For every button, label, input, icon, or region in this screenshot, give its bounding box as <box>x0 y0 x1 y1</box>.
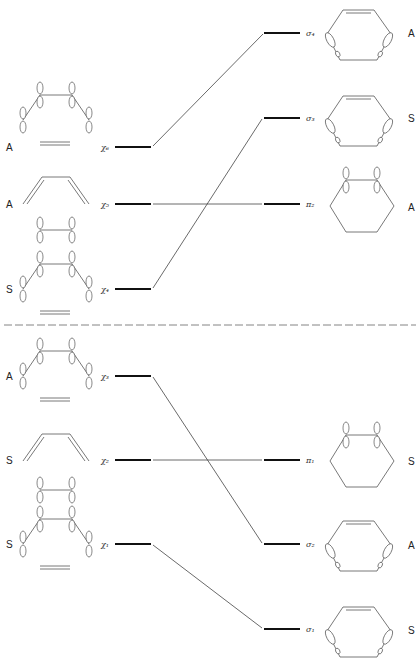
level-label-sigma2: σ₂ <box>306 540 315 549</box>
level-label-chi2: χ₂ <box>100 456 109 465</box>
symmetry-label-chi3: A <box>6 371 13 382</box>
correlation-chi1-sigma1 <box>153 545 262 628</box>
left-structure-chi5-pi <box>37 217 75 243</box>
symmetry-label-sigma3: S <box>408 113 415 124</box>
right-structure-sigma2 <box>323 521 394 571</box>
level-label-sigma3: σ₃ <box>306 114 315 123</box>
correlation-chi4-sigma3 <box>153 119 262 288</box>
symmetry-label-sigma4: A <box>408 28 415 39</box>
level-label-chi3: χ₃ <box>100 372 109 381</box>
symmetry-label-sigma1: S <box>408 625 415 636</box>
level-label-pi1: π₁ <box>305 456 314 465</box>
left-structure-chi6 <box>20 82 92 145</box>
level-label-sigma1: σ₁ <box>306 625 315 634</box>
correlation-chi6-sigma4 <box>153 34 263 146</box>
symmetry-label-pi2: A <box>408 202 415 213</box>
symmetry-label-chi1: S <box>6 539 13 550</box>
symmetry-label-chi4: S <box>6 284 13 295</box>
level-label-chi4: χ₄ <box>100 285 109 294</box>
left-structure-chi3 <box>20 338 92 401</box>
level-label-chi1: χ₁ <box>100 540 109 549</box>
right-structure-sigma1 <box>323 607 394 657</box>
right-structure-pi2 <box>330 167 394 232</box>
symmetry-label-sigma2: A <box>408 540 415 551</box>
symmetry-label-chi6: A <box>6 142 13 153</box>
right-structure-sigma3 <box>323 96 394 146</box>
level-label-chi5: χ₅ <box>100 200 110 209</box>
left-structure-chi1 <box>20 506 92 569</box>
correlation-diagram: A A S A S S χ₆ χ₅ χ₄ χ₃ χ₂ χ₁ σ₄ σ₃ π₂ π… <box>0 0 420 669</box>
left-structure-chi5 <box>23 177 89 204</box>
level-label-chi6: χ₆ <box>100 143 110 152</box>
level-label-sigma4: σ₄ <box>306 29 315 38</box>
symmetry-label-chi5: A <box>6 199 13 210</box>
symmetry-label-pi1: S <box>408 456 415 467</box>
right-structure-pi1 <box>330 422 394 487</box>
level-label-pi2: π₂ <box>305 200 314 209</box>
left-structure-chi4 <box>20 251 92 314</box>
left-structure-chi2-pi <box>37 477 75 503</box>
right-structure-sigma4 <box>323 10 394 60</box>
symmetry-label-chi2: S <box>6 455 13 466</box>
left-structure-chi2 <box>23 434 89 461</box>
